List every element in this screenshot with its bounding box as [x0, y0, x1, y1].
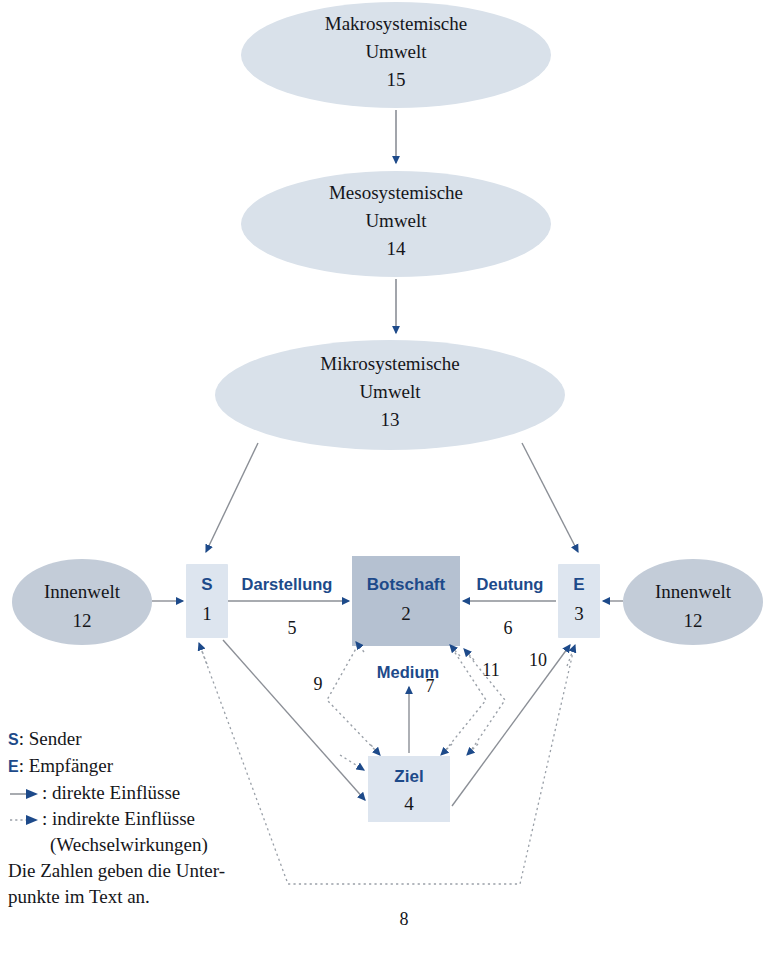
legend-text-empfaenger: : Empfänger: [19, 755, 113, 776]
edge-number-11: 11: [482, 660, 499, 680]
legend-row-indirect-2: (Wechselwirkungen): [8, 832, 298, 858]
box-number: 1: [202, 603, 212, 624]
legend-note-line2: punkte im Text an.: [8, 884, 298, 910]
ellipse-number: 13: [381, 409, 400, 430]
box-empfaenger: E 3: [558, 564, 600, 638]
ellipse-mikrosystemische-umwelt: Mikrosystemische Umwelt 13: [215, 340, 565, 450]
diagram-canvas: Makrosystemische Umwelt 15 Mesosystemisc…: [0, 0, 768, 964]
box-number: 2: [401, 603, 411, 624]
legend-row-sender: S: Sender: [8, 726, 298, 753]
dotted-arrow-icon: [8, 807, 42, 819]
ellipse-number: 12: [684, 610, 703, 631]
legend-key-empfaenger: E: [8, 758, 19, 775]
legend-text-direct: : direkte Einflüsse: [42, 782, 180, 803]
ellipse-shape: [12, 559, 152, 645]
ellipse-number: 14: [387, 238, 407, 259]
box-shape: [352, 556, 460, 646]
arrowhead-6-branch-to-botschaft: [464, 649, 474, 660]
ellipse-number: 12: [73, 610, 92, 631]
edge-label-darstellung: Darstellung: [242, 575, 333, 593]
ellipse-label-line1: Innenwelt: [44, 581, 121, 602]
box-code-label: Botschaft: [367, 575, 446, 594]
arrowhead-6-branch-to-ziel: [467, 744, 478, 755]
box-ziel: Ziel 4: [368, 756, 450, 822]
solid-arrow-icon: [8, 781, 42, 793]
box-code-label: S: [201, 575, 212, 594]
ellipse-number: 15: [387, 69, 406, 90]
ellipse-mesosystemische-umwelt: Mesosystemische Umwelt 14: [241, 171, 551, 277]
box-code-label: Ziel: [394, 767, 423, 786]
box-number: 3: [574, 603, 584, 624]
edge-label-deutung: Deutung: [477, 575, 544, 593]
arrowhead-spacer: [356, 768, 366, 776]
arrow-mikro-to-sender: [206, 443, 258, 552]
arrowhead-9-to-ziel: [371, 745, 380, 755]
legend-row-direct: : direkte Einflüsse: [8, 780, 298, 806]
ellipse-label-line2: Umwelt: [365, 210, 427, 231]
edge-number-10: 10: [529, 650, 547, 670]
ellipse-label-line2: Umwelt: [365, 41, 427, 62]
legend-note-line1: Die Zahlen geben die Unter-: [8, 858, 298, 884]
dotted-path-11: [444, 648, 486, 752]
edge-number-8: 8: [400, 909, 409, 929]
ellipse-shape: [623, 559, 763, 645]
legend-key-sender: S: [8, 731, 19, 748]
edge-number-7: 7: [426, 676, 435, 696]
ellipse-innenwelt-left: Innenwelt 12: [12, 559, 152, 645]
legend-row-empfaenger: E: Empfänger: [8, 753, 298, 780]
box-botschaft: Botschaft 2: [352, 556, 460, 646]
ellipse-label-line2: Umwelt: [359, 381, 421, 402]
ellipse-label-line1: Innenwelt: [655, 581, 732, 602]
ellipse-label-line1: Makrosystemische: [325, 13, 467, 34]
legend-text-indirect: : indirekte Einflüsse: [42, 808, 195, 829]
legend-text-sender: : Sender: [19, 728, 82, 749]
dotted-path-9: [327, 645, 377, 752]
arrow-ziel-to-empfaenger: [452, 645, 570, 806]
box-code-label: E: [573, 575, 584, 594]
arrowhead-11-to-botschaft: [450, 645, 460, 656]
ellipse-label-line1: Mesosystemische: [329, 182, 463, 203]
box-number: 4: [404, 793, 414, 814]
legend: S: Sender E: Empfänger : direkte Einflüs…: [8, 726, 298, 910]
ellipse-label-line1: Mikrosystemische: [320, 353, 459, 374]
arrowhead-into-ziel-left-upper: [340, 755, 364, 770]
box-sender: S 1: [186, 564, 228, 638]
arrow-mikro-to-empfaenger: [522, 443, 578, 552]
ellipse-makrosystemische-umwelt: Makrosystemische Umwelt 15: [241, 2, 551, 108]
edge-number-9: 9: [314, 674, 323, 694]
legend-row-indirect: : indirekte Einflüsse: [8, 806, 298, 832]
ellipse-innenwelt-right: Innenwelt 12: [623, 559, 763, 645]
edge-number-6: 6: [504, 618, 513, 638]
edge-number-5: 5: [288, 618, 297, 638]
